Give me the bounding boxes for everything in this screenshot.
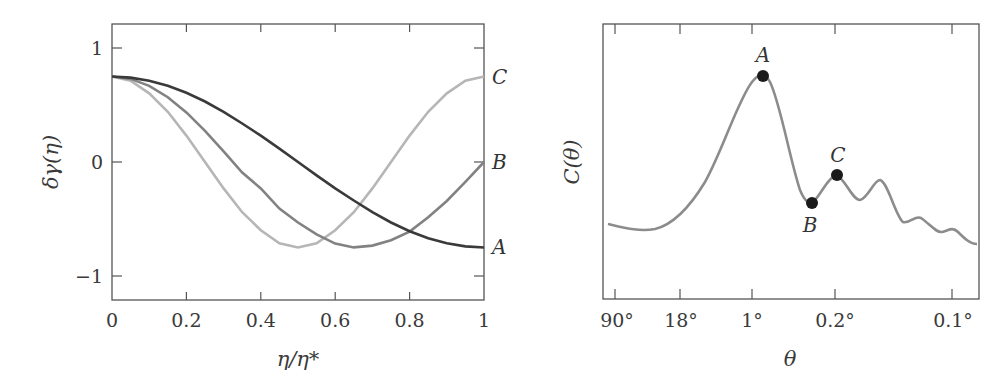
left-x-tick-1: 1: [478, 309, 490, 331]
right-x-tick-1deg: 1°: [741, 309, 763, 331]
point-b-label: B: [802, 213, 818, 237]
power-spectrum-curve: [608, 75, 977, 244]
left-plot: 0 0.2 0.4 0.6 0.8 1 1 0 −1 η/η* δγ(η) C …: [39, 24, 507, 371]
curve-label-a: A: [490, 235, 506, 259]
right-x-tick-0.2deg: 0.2°: [815, 309, 855, 331]
left-y-tick-1: 1: [91, 37, 103, 59]
right-x-tick-18deg: 18°: [664, 309, 698, 331]
left-x-tick-0.2: 0.2: [171, 309, 201, 331]
right-plot: 90° 18° 1° 0.2° 0.1° θ C(θ) A B C: [560, 24, 979, 371]
point-a-marker: [757, 70, 769, 82]
right-x-axis-title: θ: [784, 347, 797, 371]
left-x-tick-0.4: 0.4: [246, 309, 276, 331]
right-x-ticks: [615, 24, 952, 299]
point-b-marker: [806, 197, 818, 209]
curve-label-c: C: [492, 65, 507, 89]
right-x-tick-0.1deg: 0.1°: [933, 309, 973, 331]
curve-label-b: B: [491, 150, 507, 174]
right-y-axis-title: C(θ): [560, 139, 584, 184]
left-x-tick-0.6: 0.6: [320, 309, 350, 331]
point-c-marker: [831, 169, 843, 181]
left-y-axis-title: δγ(η): [39, 135, 63, 189]
left-x-tick-0.8: 0.8: [394, 309, 424, 331]
left-y-tick-neg1: −1: [75, 265, 103, 287]
figure: 0 0.2 0.4 0.6 0.8 1 1 0 −1 η/η* δγ(η) C …: [0, 0, 1003, 385]
left-x-tick-0: 0: [106, 309, 118, 331]
point-c-label: C: [830, 143, 845, 167]
right-x-tick-90deg: 90°: [600, 309, 634, 331]
left-x-axis-title: η/η*: [277, 347, 320, 371]
left-y-tick-0: 0: [91, 151, 103, 173]
point-a-label: A: [754, 43, 770, 67]
